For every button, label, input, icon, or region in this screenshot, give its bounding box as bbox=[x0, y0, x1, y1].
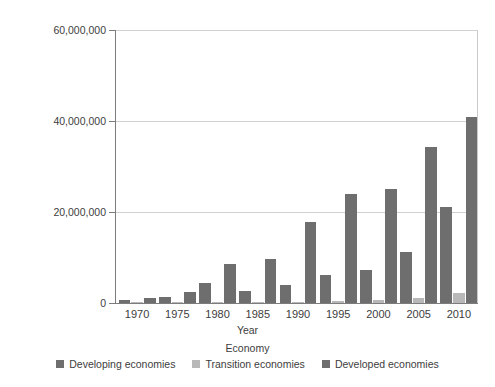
x-tick-label: 1990 bbox=[286, 308, 310, 320]
bar bbox=[466, 117, 478, 303]
bar bbox=[332, 301, 344, 303]
bar bbox=[265, 259, 277, 303]
x-axis-line bbox=[115, 303, 478, 304]
y-tick-label: 40,000,000 bbox=[2, 116, 106, 127]
bar bbox=[373, 300, 385, 303]
x-tick-label: 2010 bbox=[447, 308, 471, 320]
legend-item[interactable]: Developing economies bbox=[56, 358, 175, 370]
bar bbox=[224, 264, 236, 303]
y-tick-mark bbox=[109, 303, 115, 304]
bar bbox=[360, 270, 372, 303]
bar bbox=[345, 194, 357, 303]
legend-item[interactable]: Transition economies bbox=[192, 358, 304, 370]
legend-label: Transition economies bbox=[205, 358, 304, 370]
legend-swatch-icon bbox=[56, 360, 64, 368]
bars-layer bbox=[116, 30, 478, 303]
y-tick-label: 60,000,000 bbox=[2, 25, 106, 36]
bar bbox=[184, 292, 196, 303]
x-tick-label: 2000 bbox=[366, 308, 390, 320]
bar bbox=[400, 252, 412, 303]
bar bbox=[239, 291, 251, 303]
y-tick-mark bbox=[109, 30, 115, 31]
bar bbox=[320, 275, 332, 303]
y-tick-mark bbox=[109, 121, 115, 122]
y-tick-label: 0 bbox=[2, 298, 106, 309]
legend-item[interactable]: Developed economies bbox=[322, 358, 439, 370]
bar bbox=[252, 302, 264, 303]
bar bbox=[131, 302, 143, 303]
bar bbox=[280, 285, 292, 303]
y-tick-mark bbox=[109, 212, 115, 213]
x-tick-label: 1970 bbox=[125, 308, 149, 320]
legend-swatch-icon bbox=[322, 360, 330, 368]
bar bbox=[413, 298, 425, 303]
bar bbox=[385, 189, 397, 303]
bar bbox=[119, 300, 131, 303]
bar bbox=[453, 293, 465, 303]
x-tick-label: 1975 bbox=[165, 308, 189, 320]
x-tick-label: 1980 bbox=[205, 308, 229, 320]
legend-label: Developing economies bbox=[69, 358, 175, 370]
legend: Developing economiesTransition economies… bbox=[0, 358, 495, 370]
bar bbox=[305, 222, 317, 303]
bar bbox=[292, 302, 304, 303]
bar bbox=[425, 147, 437, 303]
bar bbox=[440, 207, 452, 303]
legend-label: Developed economies bbox=[335, 358, 439, 370]
x-tick-label: 2005 bbox=[406, 308, 430, 320]
bar bbox=[159, 297, 171, 303]
legend-swatch-icon bbox=[192, 360, 200, 368]
bar bbox=[199, 283, 211, 303]
bar bbox=[144, 298, 156, 303]
bar bbox=[212, 302, 224, 303]
x-tick-label: 1985 bbox=[246, 308, 270, 320]
x-tick-label: 1995 bbox=[326, 308, 350, 320]
x-axis-title: Year bbox=[0, 324, 495, 336]
bar bbox=[172, 302, 184, 303]
bar-chart: 020,000,00040,000,00060,000,000 19701975… bbox=[0, 0, 495, 387]
legend-title: Economy bbox=[0, 342, 495, 354]
y-tick-label: 20,000,000 bbox=[2, 207, 106, 218]
